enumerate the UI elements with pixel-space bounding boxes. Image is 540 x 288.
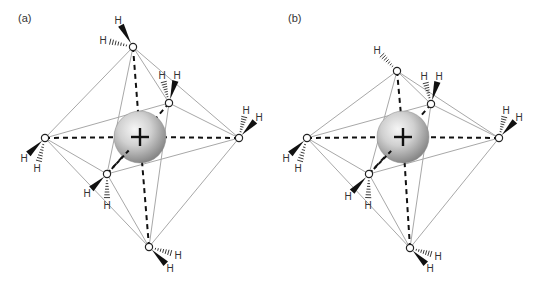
hash-bond <box>158 248 159 250</box>
hash-bond <box>240 126 243 127</box>
hydrogen-label: H <box>33 163 40 174</box>
hydrogen-label: H <box>502 105 509 116</box>
hash-bond <box>300 155 304 156</box>
water-molecule-right: HH <box>235 105 262 142</box>
hash-bond <box>421 250 422 253</box>
octahedron-edge <box>431 104 499 138</box>
oxygen-atom <box>365 170 372 177</box>
hash-bond <box>424 85 429 86</box>
hash-bond <box>163 86 168 87</box>
hash-bond <box>390 64 392 66</box>
hash-bond <box>392 66 393 67</box>
hydrogen-label: H <box>420 71 427 82</box>
oxygen-atom <box>393 67 400 74</box>
hash-bond <box>240 129 243 130</box>
hash-bond <box>155 248 156 250</box>
hash-bond <box>168 250 169 255</box>
hash-bond <box>427 92 430 93</box>
wedge-bond <box>350 177 366 194</box>
hydrogen-label: H <box>158 70 165 81</box>
oxygen-atom <box>303 134 310 141</box>
hash-bond <box>37 157 42 158</box>
water-molecule-lower-left: HH <box>83 170 110 210</box>
coordination-bond-front <box>107 149 130 174</box>
oxygen-atom <box>427 100 434 107</box>
hash-bond <box>425 87 430 88</box>
hydrogen-label: H <box>435 71 442 82</box>
water-molecule-right: HH <box>495 105 522 142</box>
hash-bond <box>297 160 303 162</box>
hash-bond <box>118 42 119 46</box>
oxygen-atom <box>103 170 110 177</box>
hash-bond <box>386 59 389 62</box>
hydrogen-label: H <box>282 153 289 164</box>
octahedron-edge <box>45 138 107 174</box>
hydrogen-label: H <box>114 15 121 26</box>
hash-bond <box>162 84 167 85</box>
hash-bond <box>40 150 43 151</box>
hash-bond <box>500 126 503 127</box>
hash-bond <box>121 43 122 46</box>
hash-bond <box>500 124 504 125</box>
hash-bond <box>384 57 387 60</box>
water-molecule-bottom: HH <box>406 244 441 273</box>
water-molecule-top: HH <box>99 15 136 51</box>
hash-bond <box>110 39 111 45</box>
hash-bond <box>425 250 426 254</box>
hash-bond <box>123 44 124 47</box>
hash-bond <box>416 249 417 251</box>
hash-bond <box>501 116 507 117</box>
hydrogen-label: H <box>166 263 173 274</box>
octahedron-edge <box>107 174 149 247</box>
hydrogen-label: H <box>364 200 371 211</box>
water-molecule-lower-left: HH <box>344 170 372 210</box>
oxygen-atom <box>129 43 136 50</box>
hash-bond <box>170 250 172 256</box>
hash-bond <box>298 157 303 159</box>
hash-bond <box>112 40 113 45</box>
water-molecule-bottom: HH <box>145 243 181 273</box>
oxygen-atom <box>406 244 413 251</box>
panel-b: (b)HHHHHHHHHHH <box>282 12 522 274</box>
hydrogen-label: H <box>174 250 181 261</box>
hash-bond <box>241 119 246 120</box>
hash-bond <box>163 249 164 253</box>
wedge-bond <box>170 80 178 99</box>
octahedral-hydration-diagram: (a)HHHHHHHHHHHH (b)HHHHHHHHHHH <box>0 0 540 288</box>
panel-label: (b) <box>288 12 301 24</box>
hash-bond <box>39 152 43 153</box>
hash-bond <box>428 95 431 96</box>
oxygen-atom <box>41 134 48 141</box>
oxygen-atom <box>165 99 172 106</box>
hash-bond <box>165 249 166 253</box>
hash-bond <box>302 150 305 151</box>
octahedron-edge <box>149 138 239 247</box>
water-molecule-top: H <box>373 45 400 75</box>
hash-bond <box>423 250 424 254</box>
hash-bond <box>301 152 305 153</box>
hash-bond <box>500 129 503 130</box>
panel-label: (a) <box>18 12 31 24</box>
hydrogen-label: H <box>294 163 301 174</box>
hydrogen-label: H <box>434 251 441 262</box>
hydrogen-label: H <box>426 263 433 274</box>
oxygen-atom <box>495 134 502 141</box>
hash-bond <box>501 119 506 120</box>
hash-bond <box>161 81 167 82</box>
hash-bond <box>428 251 429 256</box>
hydrogen-label: H <box>515 112 522 123</box>
water-molecule-left: HH <box>282 134 310 173</box>
hash-bond <box>304 144 306 145</box>
wedge-bond <box>118 24 131 44</box>
hydrogen-label: H <box>103 200 110 211</box>
hash-bond <box>165 91 168 92</box>
hydrogen-label: H <box>20 153 27 164</box>
wedge-bond <box>288 141 304 156</box>
hash-bond <box>166 94 169 95</box>
hydrogen-label: H <box>242 105 249 116</box>
hydrogen-label: H <box>83 188 90 199</box>
hash-bond <box>388 61 390 63</box>
hash-bond <box>423 82 429 83</box>
water-molecule-upper-right: HH <box>158 70 180 107</box>
hash-bond <box>41 147 43 148</box>
